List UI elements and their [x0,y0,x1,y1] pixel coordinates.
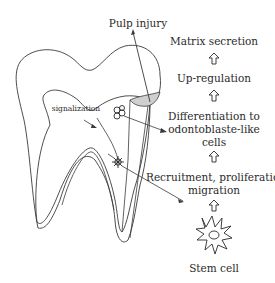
recruitment-arrow-short [108,154,114,158]
differentiation-arrow [124,116,164,131]
step-recruitment-line1: Recruitment, proliferation [146,171,275,183]
cluster-cell-icon [114,106,125,120]
step-recruitment-line2: migration [146,184,275,196]
step-differentiation-line1: Differentiation to [160,110,268,122]
step-matrix-secretion: Matrix secretion [164,35,264,47]
signalization-arrowhead [91,124,97,128]
pulp-regeneration-diagram: Pulp injury signalization Matrix secreti… [0,0,275,283]
pulp-injury-label: Pulp injury [108,17,168,29]
tooth-outer-contour [16,45,160,242]
step-differentiation-line3: cells [160,136,268,148]
step-differentiation-line2: odontoblaste-like [160,123,268,135]
pulp-injury-area [130,92,160,106]
pulp-injury-arrowhead [131,29,135,35]
pulp-injury-arrow [133,32,150,102]
step-stem-cell: Stem cell [174,262,254,274]
step-up-regulation: Up-regulation [164,72,264,84]
star-cell-icon [196,216,232,254]
signalization-label: signalization [48,105,104,114]
signal-line [97,118,118,160]
